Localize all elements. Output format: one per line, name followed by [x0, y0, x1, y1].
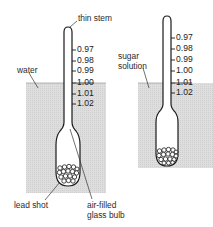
label-lead-shot: lead shot: [14, 201, 48, 210]
label-thin-stem: thin stem: [78, 14, 112, 23]
label-bulb-line2: glass bulb: [87, 211, 125, 220]
right-scale-2: 0.99: [176, 55, 193, 64]
right-scale-3: 1.00: [176, 66, 193, 75]
left-scale-0: 0.97: [77, 45, 94, 54]
left-scale-4: 1.01: [77, 89, 94, 98]
left-scale-2: 0.99: [77, 66, 94, 75]
right-scale-5: 1.02: [176, 88, 193, 97]
right-scale-4: 1.01: [176, 78, 193, 87]
left-scale-1: 0.98: [77, 56, 94, 65]
stem-leader-line: [70, 21, 77, 27]
label-bulb-line1: air-filled: [87, 201, 116, 210]
right-scale-1: 0.98: [176, 44, 193, 53]
left-scale-5: 1.02: [77, 99, 94, 108]
label-water: water: [17, 66, 37, 75]
label-sugar: sugar: [118, 52, 139, 61]
right-scale-0: 0.97: [176, 33, 193, 42]
left-scale-3: 1.00: [77, 78, 94, 87]
label-solution: solution: [118, 62, 147, 71]
